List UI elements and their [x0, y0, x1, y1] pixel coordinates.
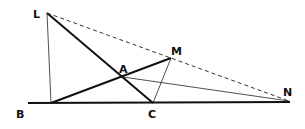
segment-L-N-dashed [47, 13, 289, 101]
point-label-A: A [119, 63, 128, 76]
point-label-C: C [148, 108, 156, 121]
point-label-M: M [171, 45, 182, 58]
point-label-L: L [33, 8, 40, 21]
segment-base-line [28, 102, 290, 103]
point-label-B: B [16, 108, 24, 121]
segment-L-foot [47, 13, 51, 103]
geometry-diagram: L M A B C N [0, 0, 305, 129]
segment-L-C [47, 13, 153, 103]
point-label-N: N [283, 86, 292, 99]
segment-foot-M [51, 58, 171, 103]
